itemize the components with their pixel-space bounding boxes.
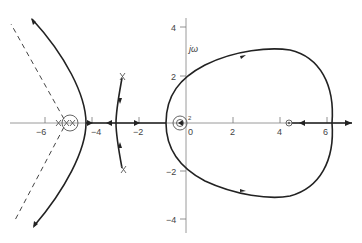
tick-label-y-neg2: −2 <box>166 167 176 177</box>
arrow-icon <box>240 189 246 192</box>
left-locus-upper <box>32 19 86 123</box>
arrow-icon <box>106 120 112 126</box>
tick-label-x-4: 4 <box>277 127 282 137</box>
arrow-icon <box>240 55 246 59</box>
pole-mark-lower <box>121 166 126 173</box>
left-locus-lower <box>34 123 86 226</box>
tick-label-x-neg6: −6 <box>36 127 46 137</box>
arrow-icon <box>299 120 305 126</box>
tick-label-y-4: 4 <box>171 23 176 33</box>
tick-label-y-neg4: −4 <box>166 215 176 225</box>
tick-label-y-2: 2 <box>171 72 176 82</box>
asymptote-upper <box>11 24 64 119</box>
real-axis-tick-labels: −6 −4 −2 0 2 4 6 <box>36 127 328 137</box>
tick-label-x-6: 6 <box>323 127 328 137</box>
tick-label-x-neg4: −4 <box>91 127 101 137</box>
arrow-icon <box>345 120 352 126</box>
tick-label-x-0: 0 <box>188 127 193 137</box>
arrow-icon <box>31 18 36 25</box>
asymptote-lower <box>14 127 64 222</box>
imag-axis-label: jω <box>188 44 198 54</box>
imag-axis-tick-labels: 4 2 −2 −4 <box>166 23 176 225</box>
tick-label-x-neg2: −2 <box>133 127 143 137</box>
origin-small-label: 2 <box>188 115 192 121</box>
tick-label-x-2: 2 <box>230 127 235 137</box>
root-locus-diagram: −6 −4 −2 0 2 4 6 4 2 −2 −4 jω 2 <box>0 0 362 243</box>
